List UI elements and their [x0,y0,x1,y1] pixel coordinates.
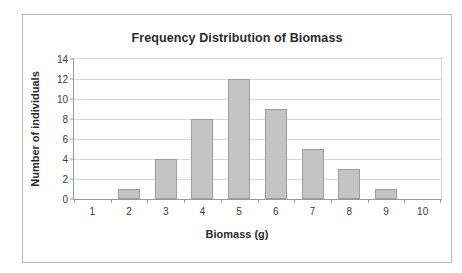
y-axis-title: Number of individuals [29,58,43,200]
x-axis-tick-label: 7 [310,206,316,217]
y-axis-tick-label: 8 [62,114,68,125]
x-axis-tick-label: 5 [236,206,242,217]
bar-slot [111,59,148,199]
bar[interactable] [302,149,324,199]
bar[interactable] [155,159,177,199]
y-axis-tick-label: 6 [62,134,68,145]
bars-layer [74,59,441,199]
bar-slot [258,59,295,199]
y-axis-tick-label: 2 [62,174,68,185]
x-axis-tick-mark [184,199,185,203]
bar-slot [331,59,368,199]
x-axis-tick-label: 8 [346,206,352,217]
x-axis-tick-mark [258,199,259,203]
y-axis-tick-label: 4 [62,154,68,165]
y-axis-tick-label: 12 [57,74,68,85]
x-axis-tick-label: 10 [417,206,428,217]
bar[interactable] [118,189,140,199]
chart-frame: Frequency Distribution of Biomass Number… [22,14,452,263]
x-axis-tick-mark [221,199,222,203]
y-axis-tick-label: 10 [57,94,68,105]
x-axis-tick-mark [331,199,332,203]
bar-slot [368,59,405,199]
x-axis-tick-mark [404,199,405,203]
bar[interactable] [228,79,250,199]
x-axis-title: Biomass (g) [23,228,451,240]
x-axis-tick-mark [111,199,112,203]
x-axis-tick-label: 6 [273,206,279,217]
x-axis-tick-label: 9 [383,206,389,217]
x-axis-tick-mark [74,199,75,203]
x-axis-tick-mark [368,199,369,203]
x-axis-tick-mark [147,199,148,203]
bar-slot [147,59,184,199]
x-axis-tick-mark [440,199,441,203]
y-axis-tick-label: 14 [57,54,68,65]
bar-slot [74,59,111,199]
chart-title: Frequency Distribution of Biomass [23,31,451,45]
plot-area: 02468101214 12345678910 [73,58,442,200]
bar[interactable] [375,189,397,199]
bar-slot [294,59,331,199]
x-axis-tick-mark [294,199,295,203]
x-axis-tick-label: 2 [126,206,132,217]
y-axis-tick-label: 0 [62,194,68,205]
bar-slot [404,59,441,199]
x-axis-tick-label: 4 [200,206,206,217]
bar[interactable] [191,119,213,199]
bar[interactable] [338,169,360,199]
bar-slot [184,59,221,199]
bar-slot [221,59,258,199]
x-axis-tick-label: 3 [163,206,169,217]
bar[interactable] [265,109,287,199]
x-axis-tick-label: 1 [90,206,96,217]
